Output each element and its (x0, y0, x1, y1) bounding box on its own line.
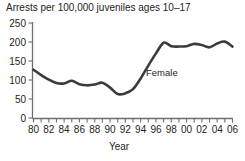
x-tick-label: 90 (104, 124, 116, 135)
data-line-female (34, 42, 233, 95)
y-tick-label: 250 (9, 18, 26, 29)
y-axis-tick-labels: 250 200 150 100 50 0 (9, 18, 26, 124)
x-axis-tick-labels: 8082848688909294969800020406 (28, 124, 239, 135)
x-tick-label: 94 (135, 124, 147, 135)
y-tick-label: 0 (20, 113, 26, 124)
chart-plot-area: 250 200 150 100 50 0 8082848688909294969… (0, 0, 245, 161)
x-tick-label: 80 (28, 124, 40, 135)
x-tick-label: 02 (196, 124, 208, 135)
x-tick-label: 92 (120, 124, 132, 135)
x-tick-label: 98 (166, 124, 178, 135)
x-tick-label: 86 (74, 124, 86, 135)
series-label-female: Female (146, 67, 178, 78)
y-tick-label: 50 (15, 94, 27, 105)
x-tick-label: 82 (43, 124, 55, 135)
x-tick-label: 88 (89, 124, 101, 135)
y-tick-label: 100 (9, 75, 26, 86)
x-tick-label: 00 (181, 124, 193, 135)
x-tick-label: 06 (227, 124, 239, 135)
x-tick-label: 96 (150, 124, 162, 135)
x-axis-title: Year (109, 141, 130, 152)
x-tick-label: 04 (212, 124, 224, 135)
chart-container: Arrests per 100,000 juveniles ages 10–17… (0, 0, 245, 161)
y-tick-label: 200 (9, 37, 26, 48)
x-tick-label: 84 (59, 124, 71, 135)
y-tick-label: 150 (9, 56, 26, 67)
